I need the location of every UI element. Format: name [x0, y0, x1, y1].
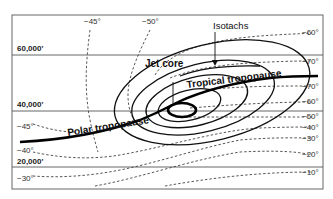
isotachs-arrow-head	[212, 60, 218, 66]
temp-right-minus10: −10°	[302, 168, 319, 177]
altitude-label-20000: 20,000'	[17, 157, 43, 166]
altitude-label-40000: 40,000'	[17, 100, 43, 109]
temp-top-minus50: −50°	[142, 17, 159, 26]
temp-left-minus45: −45°	[17, 122, 34, 131]
isotach-outer	[103, 21, 320, 163]
temp-right-minus20: −20°	[302, 150, 319, 159]
diagram-frame	[12, 15, 323, 189]
altitude-label-60000: 60,000'	[17, 44, 43, 53]
jet-stream-diagram: 60,000' 40,000' 20,000' Isotachs Jet	[0, 0, 333, 199]
temp-right-minus70-upper: −70°	[302, 57, 319, 66]
temp-right-minus70-lower: −70°	[302, 82, 319, 91]
temp-top-minus45: −45°	[84, 17, 101, 26]
temp-left-minus30: −30°	[17, 174, 34, 183]
temp-right-minus50: −50°	[302, 112, 319, 121]
temp-right-minus60-lower: −60°	[302, 97, 319, 106]
isotachs	[103, 21, 320, 163]
temp-left-minus40: −40°	[17, 146, 34, 155]
isotherm-minus60-lower	[190, 102, 312, 108]
polar-tropopause-label: Polar tropopause	[67, 114, 150, 138]
temp-right-minus60-top: −60°	[302, 28, 319, 37]
isotherm-minus10	[165, 172, 312, 186]
temp-right-minus30: −30°	[302, 134, 319, 143]
isotachs-label: Isotachs	[213, 20, 249, 31]
jet-core-label: Jet core	[145, 58, 184, 69]
temp-right-minus40: −40°	[302, 123, 319, 132]
